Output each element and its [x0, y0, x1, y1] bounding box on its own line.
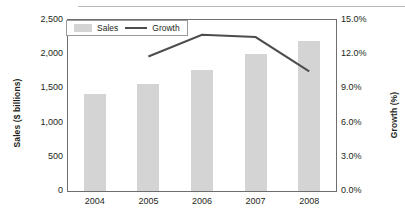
legend-item-sales: Sales	[74, 23, 118, 33]
x-tick-2005: 2005	[125, 196, 171, 206]
x-tick-2007: 2007	[233, 196, 279, 206]
legend-label-growth: Growth	[152, 23, 179, 33]
x-tick-2004: 2004	[72, 196, 118, 206]
x-tick-2008: 2008	[286, 196, 332, 206]
x-tick-2006: 2006	[179, 196, 225, 206]
combo-chart: Sales ($ billions) Growth (%) 05001,0001…	[0, 0, 405, 223]
line-series-growth	[68, 20, 336, 191]
growth-polyline	[148, 35, 309, 71]
legend-label-sales: Sales	[97, 23, 118, 33]
chart-legend: Sales Growth	[66, 20, 188, 36]
legend-item-growth: Growth	[125, 23, 179, 33]
sales-swatch-icon	[74, 24, 92, 32]
plot-area	[67, 19, 337, 192]
growth-line-icon	[125, 27, 147, 29]
